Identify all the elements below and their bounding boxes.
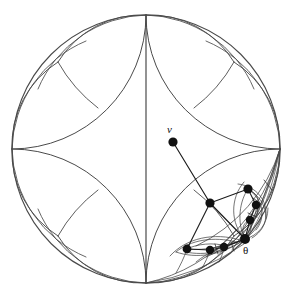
hyperbolic-tessellation-figure: v θ	[0, 0, 294, 299]
node-right-3[interactable]	[246, 216, 254, 224]
node-bot-2[interactable]	[206, 246, 214, 254]
node-right-2[interactable]	[252, 201, 260, 209]
label-angle-theta: θ	[243, 245, 248, 256]
node-bot-3[interactable]	[220, 243, 228, 251]
label-vertex-v: v	[167, 124, 172, 135]
node-right-1[interactable]	[243, 184, 252, 193]
node-v[interactable]	[168, 137, 177, 146]
node-mid[interactable]	[205, 198, 214, 207]
node-theta[interactable]	[240, 234, 250, 244]
node-bot-1[interactable]	[183, 245, 192, 254]
poincare-disk-svg	[0, 0, 294, 299]
